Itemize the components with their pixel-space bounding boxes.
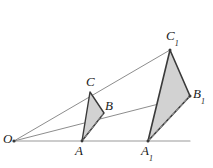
vertex-O-dot [12,139,15,142]
label-A: A [75,144,83,157]
label-B: B [105,99,113,112]
label-C: C [86,75,95,88]
vertex-C1-dot [169,49,172,52]
label-O: O [3,132,12,145]
figure-canvas [0,0,213,168]
vertex-B1-dot [189,95,192,98]
label-B1: B1 [193,87,205,104]
label-C1: C1 [166,29,179,46]
geometry-figure: O A B C A1 B1 C1 [0,0,213,168]
triangle-A1B1C1-face [148,50,190,141]
triangle-A1B1C1 [148,50,190,141]
vertex-A-dot [81,140,84,143]
label-A1: A1 [141,144,153,161]
